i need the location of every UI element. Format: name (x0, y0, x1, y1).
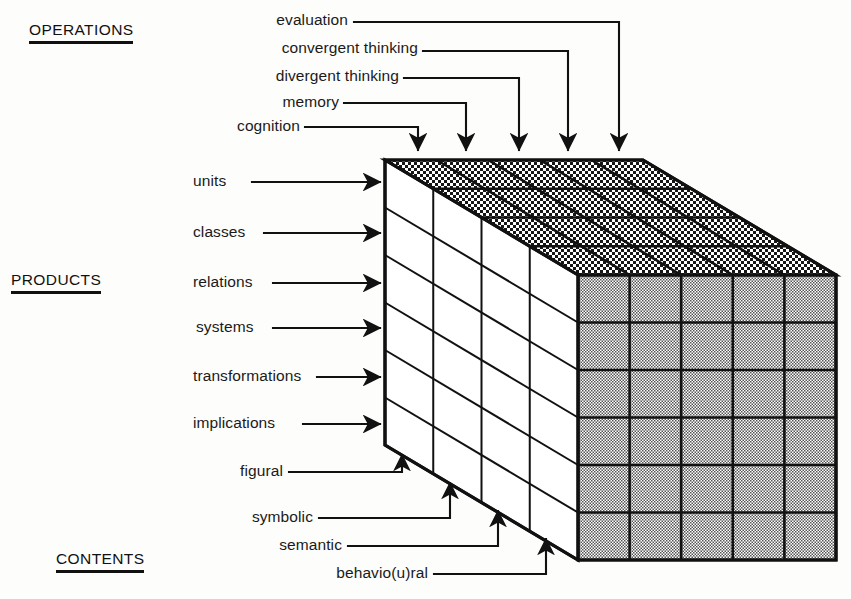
contents-label-figural: figural (240, 462, 283, 480)
products-label-relations: relations (193, 273, 253, 291)
axis-title-products-underline (11, 291, 101, 294)
leader-line-cognition (305, 127, 418, 150)
contents-label-symbolic: symbolic (252, 508, 313, 526)
products-label-transformations: transformations (193, 367, 301, 385)
axis-title-operations-label: OPERATIONS (29, 21, 133, 38)
operations-label-divergent-thinking: divergent thinking (276, 67, 399, 85)
leader-line-symbolic (319, 483, 450, 518)
products-label-systems: systems (196, 318, 254, 336)
products-label-implications: implications (193, 414, 275, 432)
soi-cube (385, 160, 836, 560)
products-leader-lines (252, 182, 380, 424)
leader-line-divergent-thinking (404, 78, 519, 150)
leader-line-behavioural (434, 539, 546, 574)
leader-line-figural (289, 455, 402, 472)
axis-title-contents-underline (56, 570, 144, 573)
leader-line-semantic (348, 511, 498, 546)
axis-title-contents-label: CONTENTS (56, 550, 144, 567)
operations-label-memory: memory (282, 93, 339, 111)
axis-title-contents: CONTENTS (56, 550, 144, 573)
structure-of-intellect-diagram: OPERATIONS PRODUCTS CONTENTS evaluation … (0, 0, 851, 599)
contents-label-semantic: semantic (279, 536, 342, 554)
axis-title-products-label: PRODUCTS (11, 271, 101, 288)
axis-title-operations-underline (29, 41, 133, 44)
operations-label-convergent-thinking: convergent thinking (282, 39, 418, 57)
products-label-classes: classes (193, 223, 245, 241)
axis-title-products: PRODUCTS (11, 271, 101, 294)
operations-label-evaluation: evaluation (276, 11, 348, 29)
cube-and-arrows-canvas (0, 0, 851, 599)
axis-title-operations: OPERATIONS (29, 21, 133, 44)
products-label-units: units (193, 172, 226, 190)
operations-label-cognition: cognition (237, 117, 300, 135)
leader-line-convergent-thinking (423, 51, 568, 150)
contents-label-behavioural: behavio(u)ral (336, 564, 428, 582)
